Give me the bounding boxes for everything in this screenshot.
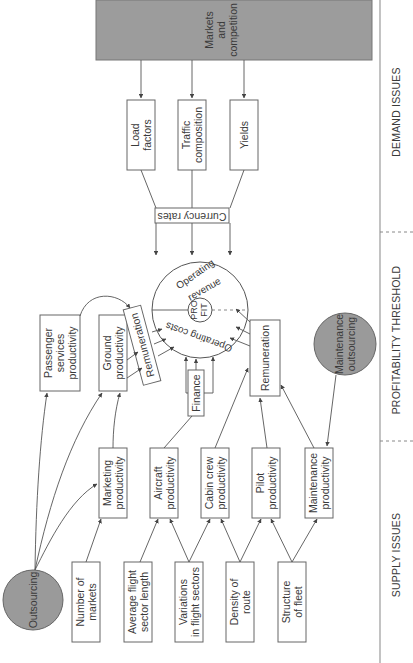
arrow-avgsector-aircraft — [140, 519, 158, 562]
arrow-variations-cabin — [189, 519, 210, 562]
pilot-label-2: productivity — [266, 456, 278, 510]
fleet-label-2: of fleet — [292, 586, 304, 618]
cabin-label-2: productivity — [215, 456, 227, 510]
arrow-pilot-remuneration — [260, 398, 267, 448]
yields-box: Yields — [230, 100, 258, 170]
yields-label: Yields — [238, 121, 250, 149]
variations-label-1: Variations — [177, 579, 189, 625]
currency-rates-box: Currency rates — [155, 208, 229, 223]
markets-label-3: competition — [227, 3, 239, 57]
pilot-productivity-box: Pilot productivity — [252, 448, 280, 518]
fleet-label-1: Structure — [280, 581, 292, 624]
arrow-maintout-maintenance — [327, 375, 336, 446]
markets-label-2: and — [215, 21, 227, 39]
line-aircraft-finance — [164, 416, 192, 448]
structure-of-fleet-box: Structure of fleet — [278, 562, 306, 642]
load-factors-label-1: Load — [129, 123, 141, 147]
profitability-diagram: DEMAND ISSUES PROFITABILITY THRESHOLD SU… — [0, 0, 413, 663]
density-label-2: route — [240, 590, 252, 614]
arrow-marketing-ground — [113, 393, 120, 448]
cabin-crew-productivity-box: Cabin crew productivity — [201, 448, 229, 518]
arrow-cabin-remuneration — [215, 368, 248, 448]
profit-circle: PRO FIT Operating revenue Operating cost… — [152, 257, 248, 358]
variations-label-2: in flight sectors — [189, 567, 201, 637]
num-markets-label-1: Number of — [74, 577, 86, 626]
marketing-productivity-box: Marketing productivity — [99, 448, 127, 518]
avg-sector-label-1: Average flight — [126, 570, 138, 634]
arrow-outsourcing-ground — [35, 393, 102, 570]
traffic-label-2: composition — [192, 107, 204, 163]
ground-label-2: productivity — [113, 326, 125, 380]
arrow-fleet-maintenance — [292, 519, 317, 562]
arrow-nummarkets-marketing — [86, 519, 101, 562]
arrow-remun-circle-3 — [158, 347, 174, 356]
outsourcing-label: Outsourcing — [27, 572, 39, 629]
num-markets-label-2: markets — [86, 583, 98, 620]
arrow-density-pilot — [240, 519, 261, 562]
avg-sector-label-2: sector length — [138, 572, 150, 632]
maintenance-label-2: productivity — [319, 456, 331, 510]
number-of-markets-box: Number of markets — [72, 562, 100, 642]
ground-label-1: Ground — [101, 335, 113, 370]
arrow-density-cabin — [221, 519, 240, 562]
passenger-label-2: services — [54, 334, 66, 373]
finance-box: Finance — [188, 370, 204, 416]
outsourcing-circle: Outsourcing — [3, 570, 63, 630]
ground-productivity-box: Ground productivity — [99, 315, 127, 391]
maint-out-label-2: outsourcing — [345, 317, 357, 371]
markets-label-1: Markets — [203, 11, 215, 48]
remuneration-lower-label: Remuneration — [259, 325, 271, 391]
section-label-supply: SUPPLY ISSUES — [390, 513, 402, 598]
aircraft-label-1: Aircraft — [152, 466, 164, 499]
section-label-threshold: PROFITABILITY THRESHOLD — [390, 265, 402, 414]
avg-sector-length-box: Average flight sector length — [124, 562, 152, 642]
load-factors-box: Load factors — [127, 100, 155, 170]
aircraft-productivity-box: Aircraft productivity — [150, 448, 178, 518]
arrow-maintenance-remuneration — [281, 385, 314, 448]
aircraft-label-2: productivity — [164, 456, 176, 510]
variations-box: Variations in flight sectors — [175, 562, 203, 642]
profit-core-label-2: FIT — [199, 303, 209, 317]
line-yields-currency — [230, 170, 244, 208]
density-label-1: Density of — [228, 579, 240, 626]
passenger-services-box: Passenger services productivity — [40, 315, 80, 391]
maintenance-label-1: Maintenance — [307, 453, 319, 513]
arrow-variations-aircraft — [170, 519, 189, 562]
pilot-label-1: Pilot — [254, 473, 266, 494]
marketing-label-1: Marketing — [101, 460, 113, 506]
density-of-route-box: Density of route — [226, 562, 254, 642]
currency-rates-label: Currency rates — [158, 211, 227, 223]
section-label-demand: DEMAND ISSUES — [390, 67, 402, 157]
finance-label: Finance — [190, 374, 202, 412]
passenger-label-1: Passenger — [42, 327, 54, 378]
arrow-fleet-pilot — [271, 519, 292, 562]
maintenance-productivity-box: Maintenance productivity — [305, 448, 333, 518]
line-load-currency — [141, 170, 156, 208]
cabin-label-1: Cabin crew — [203, 456, 215, 509]
load-factors-label-2: factors — [141, 119, 153, 151]
arrow-finance-circle-3 — [204, 357, 213, 393]
maint-out-label-1: Maintenance — [333, 314, 345, 374]
passenger-label-3: productivity — [66, 326, 78, 380]
marketing-label-2: productivity — [113, 456, 125, 510]
arrow-passenger-remuneration — [80, 296, 130, 316]
traffic-composition-box: Traffic composition — [178, 100, 206, 170]
remuneration-lower-box: Remuneration — [250, 320, 280, 396]
maintenance-outsourcing-circle: Maintenance outsourcing — [314, 313, 376, 375]
markets-competition-box: Markets and competition — [96, 0, 372, 60]
traffic-label-1: Traffic — [180, 121, 192, 150]
